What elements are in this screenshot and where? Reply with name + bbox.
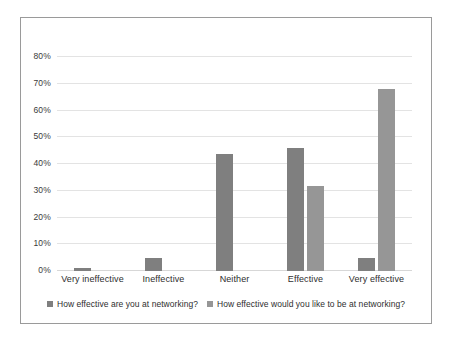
y-tick-label: 30% (33, 185, 51, 195)
bar (287, 148, 304, 271)
bar (358, 258, 375, 271)
bar-group (358, 44, 395, 271)
legend-swatch-icon (207, 301, 213, 307)
category-label: Very effective (349, 274, 404, 284)
y-tick-label: 10% (33, 238, 51, 248)
category-label: Very ineffective (61, 274, 123, 284)
chart-legend: How effective are you at networking?How … (21, 299, 431, 309)
y-tick-label: 0% (38, 265, 51, 275)
category-label: Neither (220, 274, 250, 284)
bar (378, 89, 395, 271)
plot-area: 0%10%20%30%40%50%60%70%80% (57, 44, 412, 271)
legend-item[interactable]: How effective would you like to be at ne… (207, 299, 405, 309)
y-tick-label: 40% (33, 158, 51, 168)
legend-label: How effective are you at networking? (57, 299, 198, 309)
category-axis: Very ineffectiveIneffectiveNeitherEffect… (57, 274, 412, 290)
bar-group (74, 44, 111, 271)
bar (74, 268, 91, 271)
bar-group (145, 44, 182, 271)
bar-group (287, 44, 324, 271)
bar-group (216, 44, 253, 271)
bar (307, 186, 324, 271)
y-tick-label: 50% (33, 131, 51, 141)
bar (145, 258, 162, 271)
legend-label: How effective would you like to be at ne… (217, 299, 405, 309)
y-tick-label: 80% (33, 51, 51, 61)
y-tick-label: 70% (33, 78, 51, 88)
bar (216, 154, 233, 272)
category-label: Effective (288, 274, 323, 284)
category-label: Ineffective (143, 274, 185, 284)
y-tick-label: 20% (33, 212, 51, 222)
legend-item[interactable]: How effective are you at networking? (47, 299, 198, 309)
legend-swatch-icon (47, 301, 53, 307)
y-tick-label: 60% (33, 105, 51, 115)
chart-frame: 0%10%20%30%40%50%60%70%80% Very ineffect… (20, 17, 432, 324)
